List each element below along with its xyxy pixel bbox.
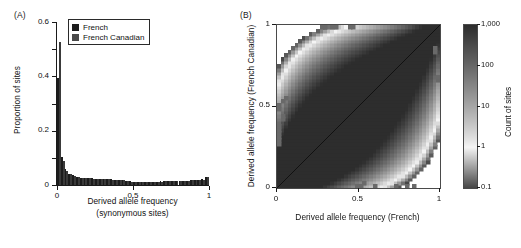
colorbar-gradient	[464, 25, 477, 188]
panel-a-y-tick	[52, 76, 56, 77]
panel-a-plot-area	[57, 22, 209, 185]
panel-a-y-tick-label: 0.4	[38, 71, 49, 80]
panel-b: (B) Derived allele frequency (French Can…	[236, 0, 521, 248]
colorbar	[463, 24, 478, 189]
panel-a: (A) Proportion of sites 00.20.40.6 00.51…	[0, 0, 236, 248]
panel-a-xlabel-line1: Derived allele frequency	[56, 196, 209, 206]
legend-label: French	[83, 23, 108, 32]
panel-b-y-tick	[272, 106, 276, 107]
panel-a-tag: (A)	[14, 10, 26, 20]
panel-b-x-tick-label: 0.5	[348, 194, 368, 203]
panel-a-y-tick-label: 0.6	[38, 17, 49, 26]
colorbar-tick-label: 1	[481, 141, 485, 150]
histogram-bin	[205, 22, 209, 185]
panel-a-y-tick	[52, 104, 56, 105]
panel-a-y-tick	[52, 158, 56, 159]
panel-a-y-tick	[52, 49, 56, 50]
colorbar-tick-label: 10	[481, 101, 489, 110]
panel-a-x-tick	[57, 186, 58, 190]
figure-root: (A) Proportion of sites 00.20.40.6 00.51…	[0, 0, 521, 248]
colorbar-title: Count of sites	[504, 27, 513, 137]
panel-a-xlabel-line2: (synonymous sites)	[56, 208, 209, 218]
panel-a-y-tick-label: 0.2	[38, 125, 49, 134]
panel-a-y-tick	[52, 131, 56, 132]
heatmap-canvas	[277, 25, 440, 188]
legend-label: French Canadian	[83, 33, 144, 42]
panel-a-x-tick	[133, 186, 134, 190]
colorbar-tick-label: 0.1	[481, 182, 492, 191]
colorbar-tick	[477, 106, 480, 107]
panel-b-xlabel: Derived allele frequency (French)	[276, 212, 439, 222]
panel-b-y-tick-label: 1	[250, 19, 270, 28]
colorbar-tick-label: 100	[481, 60, 494, 69]
panel-a-legend: FrenchFrench Canadian	[68, 19, 150, 45]
panel-b-x-tick-label: 1	[429, 194, 449, 203]
legend-item: French Canadian	[72, 32, 144, 42]
panel-b-y-tick	[272, 24, 276, 25]
colorbar-tick	[477, 65, 480, 66]
legend-swatch-icon	[72, 34, 79, 41]
panel-b-y-tick-label: 0.5	[250, 100, 270, 109]
legend-swatch-icon	[72, 24, 79, 31]
panel-b-x-tick	[358, 188, 359, 192]
panel-a-y-tick	[52, 185, 56, 186]
legend-item: French	[72, 22, 144, 32]
panel-b-y-tick-label: 0	[250, 182, 270, 191]
colorbar-tick	[477, 187, 480, 188]
panel-b-x-tick	[439, 188, 440, 192]
colorbar-tick-label: 1,000	[481, 19, 500, 28]
panel-a-ylabel: Proportion of sites	[12, 45, 22, 155]
panel-a-y-tick-label: 0	[45, 180, 49, 189]
panel-b-heatmap	[276, 24, 441, 189]
colorbar-tick	[477, 24, 480, 25]
panel-b-x-tick-label: 0	[266, 194, 286, 203]
panel-a-y-tick	[52, 22, 56, 23]
panel-b-x-tick	[276, 188, 277, 192]
panel-a-x-tick	[209, 186, 210, 190]
panel-a-bars	[57, 22, 209, 185]
histogram-bar-french-canadian	[207, 177, 209, 185]
colorbar-tick	[477, 146, 480, 147]
